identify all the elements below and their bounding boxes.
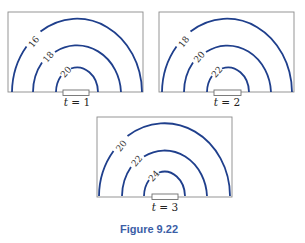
- contour-label: 18: [41, 49, 56, 64]
- heat-source-rod: [214, 90, 241, 96]
- panel-frame: [159, 12, 294, 92]
- panel-t2: 18 20 22 t = 2: [159, 12, 294, 108]
- panel-frame: [97, 117, 232, 197]
- contour-label: 16: [27, 34, 42, 49]
- contour-outer: [99, 123, 230, 196]
- panel-t3: 20 22 24 t = 3: [97, 117, 232, 213]
- panel-frame: [8, 12, 143, 92]
- heat-source-rod: [152, 194, 178, 200]
- contour-label: 20: [192, 49, 207, 64]
- time-label: t = 2: [214, 96, 240, 108]
- contour-label: 20: [114, 138, 129, 153]
- contour-label: 18: [177, 34, 192, 49]
- heat-source-rod: [63, 90, 89, 96]
- figure-caption: Figure 9.22: [120, 223, 178, 235]
- time-label: t = 3: [152, 201, 178, 213]
- figure-canvas: 16 18 20 t = 1 18 20 22 t = 2 20 22 24 t…: [0, 0, 305, 243]
- contour-outer: [12, 19, 142, 92]
- contour-outer: [162, 19, 292, 92]
- contour-label: 22: [129, 153, 144, 168]
- panel-t1: 16 18 20 t = 1: [8, 12, 143, 108]
- time-label: t = 1: [64, 96, 90, 108]
